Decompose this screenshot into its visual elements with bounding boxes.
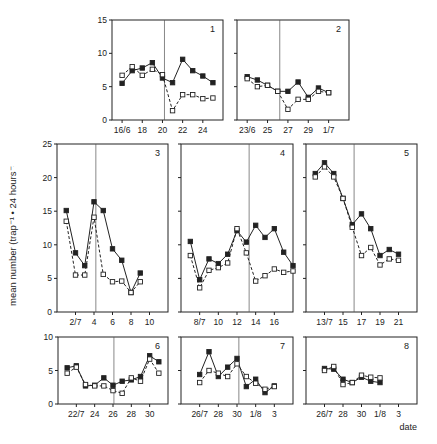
panel-2: 223/62527291/7: [234, 20, 349, 135]
marker-filled-square: [207, 257, 211, 261]
marker-open-square: [369, 375, 373, 379]
y-tick-label: 15: [43, 206, 53, 216]
marker-filled-square: [110, 247, 114, 251]
marker-open-square: [216, 371, 220, 375]
marker-open-square: [378, 376, 382, 380]
marker-open-square: [120, 73, 124, 77]
marker-filled-square: [225, 365, 229, 369]
x-tick-label: 16/6: [114, 125, 131, 135]
marker-open-square: [306, 97, 310, 101]
marker-open-square: [83, 382, 87, 386]
panel-4: 48/710121416: [178, 144, 295, 327]
marker-filled-square: [101, 208, 105, 212]
marker-open-square: [244, 374, 248, 378]
marker-filled-square: [387, 247, 391, 251]
series-line-open: [315, 167, 398, 265]
x-tick-label: 10: [214, 317, 224, 327]
marker-filled-square: [235, 356, 239, 360]
x-tick-label: 23/6: [239, 125, 256, 135]
marker-filled-square: [120, 81, 124, 85]
marker-open-square: [378, 263, 382, 267]
x-tick-label: 30: [232, 409, 242, 419]
marker-filled-square: [244, 384, 248, 388]
marker-open-square: [332, 175, 336, 179]
x-tick-label: 8/7: [194, 317, 206, 327]
y-tick-label: 0: [47, 307, 52, 317]
marker-open-square: [73, 273, 77, 277]
series-line-filled: [66, 202, 140, 293]
x-tick-label: 26/7: [191, 409, 208, 419]
x-tick-label: 27: [283, 125, 293, 135]
marker-open-square: [211, 96, 215, 100]
x-tick-label: 26: [108, 409, 118, 419]
marker-open-square: [276, 89, 280, 93]
x-tick-label: 13/7: [316, 317, 333, 327]
x-axis-label: date: [399, 422, 417, 432]
x-tick-label: 24: [90, 409, 100, 419]
marker-open-square: [201, 96, 205, 100]
marker-open-square: [188, 253, 192, 257]
y-tick-label: 10: [43, 240, 53, 250]
marker-filled-square: [140, 66, 144, 70]
marker-open-square: [101, 272, 105, 276]
marker-open-square: [138, 379, 142, 383]
panel-7: 726/728301/83: [178, 337, 293, 419]
x-tick-label: 12: [232, 317, 242, 327]
marker-open-square: [111, 388, 115, 392]
marker-open-square: [120, 279, 124, 283]
marker-open-square: [92, 384, 96, 388]
marker-open-square: [170, 108, 174, 112]
x-tick-label: 26/7: [316, 409, 333, 419]
marker-filled-square: [207, 350, 211, 354]
x-tick-label: 20: [158, 125, 168, 135]
marker-open-square: [265, 83, 269, 87]
x-tick-label: 22: [178, 125, 188, 135]
marker-filled-square: [369, 226, 373, 230]
marker-open-square: [197, 380, 201, 384]
panel-1: 105101516/618202224: [98, 15, 223, 135]
marker-filled-square: [255, 78, 259, 82]
figure: 105101516/618202224223/62527291/73051015…: [0, 0, 437, 444]
x-tick-label: 14: [251, 317, 261, 327]
marker-open-square: [120, 391, 124, 395]
x-tick-label: 17: [357, 317, 367, 327]
marker-filled-square: [197, 372, 201, 376]
marker-filled-square: [73, 251, 77, 255]
marker-filled-square: [180, 57, 184, 61]
marker-open-square: [296, 97, 300, 101]
marker-open-square: [235, 362, 239, 366]
marker-open-square: [140, 73, 144, 77]
marker-filled-square: [65, 366, 69, 370]
marker-filled-square: [396, 252, 400, 256]
marker-filled-square: [188, 239, 192, 243]
marker-open-square: [396, 258, 400, 262]
marker-open-square: [216, 265, 220, 269]
panel-number: 8: [404, 341, 409, 351]
marker-open-square: [322, 165, 326, 169]
x-tick-label: 28: [338, 409, 348, 419]
marker-open-square: [332, 364, 336, 368]
y-tick-label: 5: [48, 366, 53, 376]
marker-open-square: [102, 384, 106, 388]
marker-open-square: [65, 371, 69, 375]
panel-frame: [112, 20, 223, 120]
series-line-open: [247, 79, 328, 110]
panel-number: 3: [155, 148, 160, 158]
marker-filled-square: [296, 80, 300, 84]
panel-frame: [181, 337, 293, 404]
y-tick-label: 0: [102, 115, 107, 125]
panel-number: 5: [404, 148, 409, 158]
panel-number: 7: [280, 341, 285, 351]
marker-filled-square: [378, 253, 382, 257]
series-line-open: [122, 67, 213, 111]
panel-5: 513/715171921: [303, 144, 417, 327]
marker-open-square: [244, 251, 248, 255]
x-tick-label: 8: [129, 317, 134, 327]
marker-open-square: [322, 368, 326, 372]
series-line-filled: [190, 225, 293, 279]
y-axis-label-container: mean number (trap⁻¹ • 24 hours⁻¹): [2, 166, 22, 306]
series-line-open: [200, 364, 275, 389]
marker-open-square: [130, 64, 134, 68]
y-tick-label: 0: [48, 399, 53, 409]
marker-filled-square: [92, 200, 96, 204]
